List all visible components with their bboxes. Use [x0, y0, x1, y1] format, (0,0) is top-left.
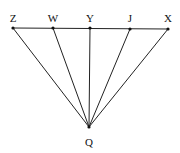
- segment-wq: [53, 28, 89, 127]
- segment-xq: [89, 29, 168, 127]
- geometry-diagram: Z W Y J X Q: [0, 0, 180, 153]
- point-z: [11, 26, 14, 29]
- segment-jq: [89, 29, 130, 127]
- label-w: W: [48, 12, 59, 24]
- point-labels: Z W Y J X Q: [10, 12, 172, 148]
- segment-zq: [13, 28, 89, 127]
- label-q: Q: [85, 136, 93, 148]
- points: [11, 26, 169, 128]
- label-y: Y: [86, 12, 94, 24]
- point-w: [51, 26, 54, 29]
- point-x: [166, 27, 169, 30]
- label-j: J: [128, 12, 133, 24]
- point-q: [87, 125, 90, 128]
- point-y: [88, 26, 91, 29]
- segments: [13, 28, 168, 127]
- label-x: X: [164, 12, 172, 24]
- point-j: [128, 27, 131, 30]
- segment-yq: [89, 28, 90, 127]
- label-z: Z: [10, 12, 17, 24]
